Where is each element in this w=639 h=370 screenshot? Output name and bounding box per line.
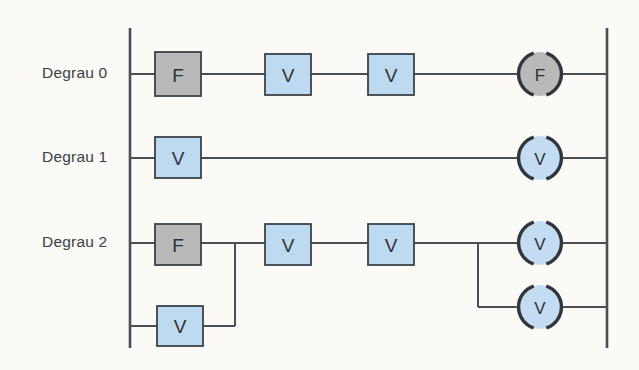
contact-rung-2-v2[interactable]: V [368,224,414,265]
rung-2: F V V V V [130,221,607,346]
contact-label: F [172,65,184,86]
contact-rung-2-f[interactable]: F [155,224,201,265]
ladder-svg: F V V F V [0,0,639,370]
contact-label: V [282,235,295,256]
coil-label: V [534,299,546,318]
coil-rung-2-v1[interactable]: V [518,221,562,265]
coil-label: V [534,235,546,254]
contact-rung-0-f[interactable]: F [155,52,201,96]
coil-label: V [534,150,546,169]
contact-label: V [385,65,398,86]
rung-1: V V [130,136,607,180]
contact-label: V [385,235,398,256]
contact-rung-0-v2[interactable]: V [368,54,414,95]
contact-label: V [282,65,295,86]
coil-rung-2-v2[interactable]: V [518,285,562,329]
rung-0: F V V F [130,52,607,96]
coil-rung-0-f[interactable]: F [518,52,562,96]
contact-rung-2-parallel-v[interactable]: V [157,306,203,346]
contact-rung-0-v1[interactable]: V [265,54,311,95]
coil-label: F [535,66,545,85]
contact-label: F [172,235,184,256]
ladder-diagram-canvas: Degrau 0 Degrau 1 Degrau 2 F V V [0,0,639,370]
contact-rung-2-v1[interactable]: V [265,224,311,265]
coil-rung-1-v[interactable]: V [518,136,562,180]
contact-label: V [174,316,187,337]
contact-rung-1-v[interactable]: V [155,137,201,178]
contact-label: V [172,148,185,169]
